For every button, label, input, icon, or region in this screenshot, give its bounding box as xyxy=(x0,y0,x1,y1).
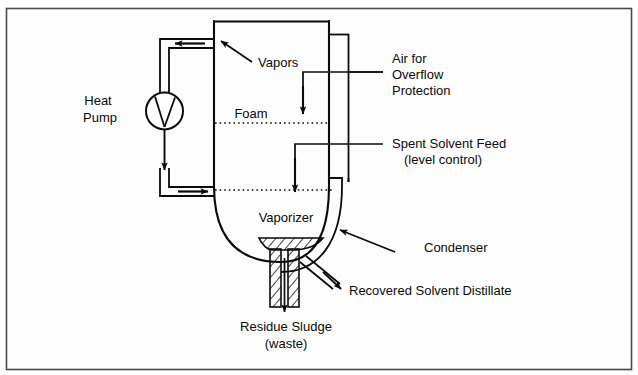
label-air-overflow-line1: Air for xyxy=(392,51,427,66)
condenser-leader xyxy=(340,230,395,252)
heat-pump-symbol xyxy=(146,93,183,130)
label-air-overflow-line2: Overflow xyxy=(392,67,444,82)
label-heat-pump-line2: Pump xyxy=(83,110,117,125)
label-spent-solvent-feed-line2: (level control) xyxy=(404,152,482,167)
condenser-jacket-top xyxy=(329,178,342,186)
heatpump-bottom-line-inner xyxy=(169,168,214,187)
label-air-overflow-line3: Protection xyxy=(392,83,451,98)
drain-pipe-left-wall xyxy=(270,249,281,307)
label-foam: Foam xyxy=(234,106,267,121)
label-vapors: Vapors xyxy=(258,55,299,70)
heatpump-top-line-inner xyxy=(169,48,214,100)
label-heat-pump-line1: Heat xyxy=(84,93,112,108)
distillate-outlet-arrow xyxy=(323,272,341,289)
label-residue-sludge-line1: Residue Sludge xyxy=(240,319,332,334)
distillate-outlet-line-a xyxy=(300,262,333,289)
label-vaporizer: Vaporizer xyxy=(259,210,314,225)
air-overflow-pipe xyxy=(303,72,383,95)
vapors-leader xyxy=(221,41,252,62)
spent-solvent-feed-pipe xyxy=(295,144,383,165)
diagram-border xyxy=(7,9,632,370)
diagram-canvas: Heat Pump Vapors Foam Air for Overflow P… xyxy=(0,0,638,375)
label-spent-solvent-feed-line1: Spent Solvent Feed xyxy=(392,136,506,151)
label-recovered-solvent-distillate: Recovered Solvent Distillate xyxy=(349,283,512,298)
label-condenser: Condenser xyxy=(424,240,488,255)
process-flow-diagram: Heat Pump Vapors Foam Air for Overflow P… xyxy=(0,0,638,375)
drain-pipe-right-wall xyxy=(288,249,299,307)
label-residue-sludge-line2: (waste) xyxy=(265,336,308,351)
